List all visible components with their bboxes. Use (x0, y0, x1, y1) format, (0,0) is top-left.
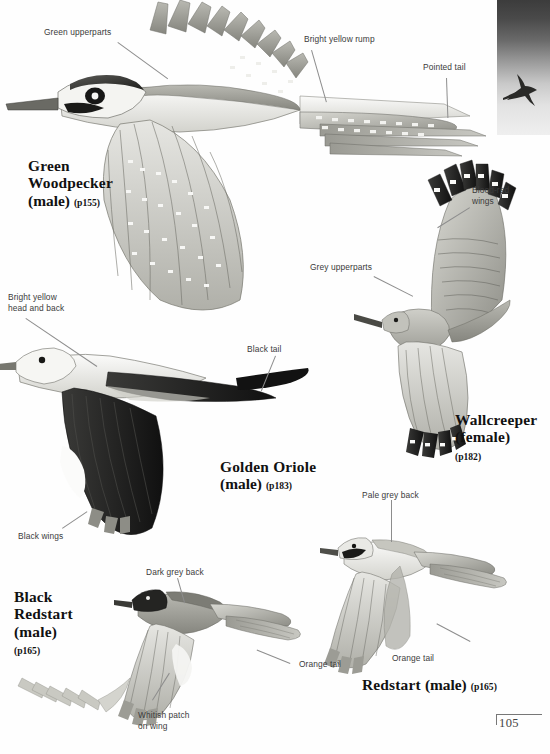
annotation-black-tail: Black tail (247, 344, 282, 355)
annotation-green-upperparts: Green upperparts (44, 27, 111, 38)
page-number: 105 (499, 716, 519, 731)
species-caption-green-woodpecker: Green Woodpecker (male) (p155) (28, 157, 113, 209)
species-caption-wallcreeper: Wallcreeper (female) (p182) (455, 411, 537, 463)
annotation-grey-upperparts: Grey upperparts (310, 262, 372, 273)
annotation-whitish-patch-on-wing: Whitish patch on wing (138, 710, 190, 731)
species-page-ref: (p165) (471, 681, 497, 692)
species-caption-black-redstart: Black Redstart (male) (p165) (14, 588, 73, 658)
annotation-dark-grey-back: Dark grey back (146, 567, 204, 578)
illustration-golden-oriole (0, 348, 309, 535)
annotation-bright-yellow-rump: Bright yellow rump (304, 34, 375, 45)
leader-pale-grey-back (391, 500, 392, 542)
species-page-ref: (p182) (455, 451, 481, 462)
annotation-orange-tail-redstart: Orange tail (392, 653, 434, 664)
species-name-line-1: Wallcreeper (455, 411, 537, 428)
species-sex: (male) (14, 623, 73, 640)
annotation-orange-tail-black-redstart: Orange tail (299, 659, 341, 670)
folio-rule-vertical (496, 714, 497, 725)
annotation-blood-red-wings: Blood-red wings (472, 185, 509, 206)
species-name-line-1: Green (28, 157, 113, 174)
species-name-line-1: Black (14, 588, 73, 605)
illustration-green-woodpecker (6, 0, 486, 310)
annotation-bright-yellow-head-back: Bright yellow head and back (8, 292, 64, 313)
species-caption-golden-oriole: Golden Oriole (male) (p183) (220, 458, 316, 493)
species-sex: (female) (455, 428, 537, 445)
bird-silhouette-icon (497, 0, 550, 135)
species-page-ref: (p155) (74, 197, 100, 208)
species-sex: (male) (220, 475, 262, 492)
annotation-pointed-tail: Pointed tail (423, 62, 466, 73)
species-name-line-1: Redstart (362, 676, 421, 693)
species-name-line-1: Golden Oriole (220, 458, 316, 475)
page-folio: 105 (496, 714, 542, 740)
species-sex: (male) (425, 676, 467, 693)
annotation-pale-grey-back: Pale grey back (362, 490, 419, 501)
species-page-ref: (p165) (14, 645, 40, 656)
species-name-line-2: Woodpecker (28, 174, 113, 191)
species-name-line-2: Redstart (14, 605, 73, 622)
species-sex: (male) (28, 192, 70, 209)
field-guide-page: Green upperparts Bright yellow rump Poin… (0, 0, 550, 754)
annotation-black-wings: Black wings (18, 531, 63, 542)
silhouette-thumbnail (497, 0, 550, 135)
species-page-ref: (p183) (266, 480, 292, 491)
species-caption-redstart: Redstart (male) (p165) (362, 676, 497, 694)
